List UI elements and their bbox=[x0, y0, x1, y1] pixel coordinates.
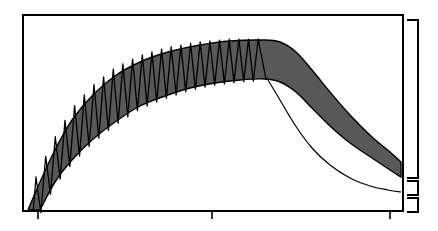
plot-background bbox=[0, 0, 438, 231]
diagram-stage bbox=[0, 0, 438, 231]
schematic-plot bbox=[0, 0, 438, 231]
